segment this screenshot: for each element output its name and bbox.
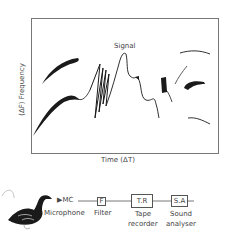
tape-recorder-box: T.R (131, 194, 153, 208)
sound-analyser-label-line2: analyser (166, 221, 196, 228)
trace-right-blob (184, 81, 205, 90)
trace-signal (106, 53, 159, 118)
spectrogram-traces (0, 0, 231, 237)
trace-connector (78, 90, 90, 100)
trace-upper-left (42, 58, 79, 84)
y-axis-label: (ΔF) Frequency (19, 60, 26, 120)
signal-label: Signal (114, 43, 136, 50)
filter-short-label: F (99, 198, 103, 205)
tape-recorder-short-label: T.R (137, 198, 148, 205)
tape-recorder-label-line2: recorder (128, 221, 158, 228)
sound-analyser-box: S.A (171, 195, 188, 207)
x-axis-label: Time (ΔT) (101, 157, 135, 164)
sound-analyser-label-line1: Sound (170, 211, 192, 218)
filter-label: Filter (94, 210, 111, 217)
trace-lower-left (33, 95, 80, 136)
sound-analyser-short-label: S.A (174, 198, 185, 205)
tape-recorder-label-line1: Tape (135, 211, 151, 218)
trace-zigzag (90, 64, 109, 118)
trace-top-right (180, 51, 210, 54)
microphone-short-label: ▶MC (57, 197, 73, 204)
trace-bottom-right (188, 118, 210, 124)
trace-diagonal (175, 66, 187, 84)
filter-box: F (97, 197, 106, 206)
microphone-label: Microphone (44, 210, 85, 217)
